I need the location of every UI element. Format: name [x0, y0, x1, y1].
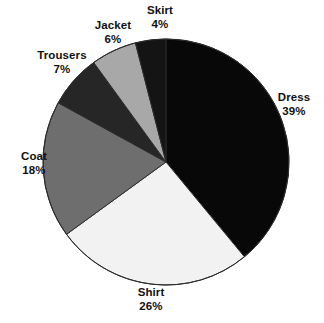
- pie-chart: Dress 39% Shirt 26% Coat 18% Trousers 7%…: [0, 0, 324, 323]
- pie-chart-canvas: [0, 0, 324, 323]
- pie-slice-group: [43, 39, 289, 285]
